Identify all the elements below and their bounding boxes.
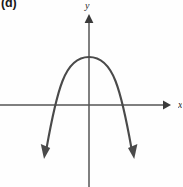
x-axis-label: x xyxy=(178,99,182,111)
x-axis-arrowhead-icon xyxy=(163,100,171,109)
y-axis-label: y xyxy=(85,0,89,12)
figure-panel: (d) y x xyxy=(0,0,183,187)
curve-left-arrowhead-icon xyxy=(41,144,50,159)
graph-canvas xyxy=(0,0,183,187)
y-axis-arrowhead-icon xyxy=(85,14,94,23)
curve-right-arrowhead-icon xyxy=(128,144,137,159)
